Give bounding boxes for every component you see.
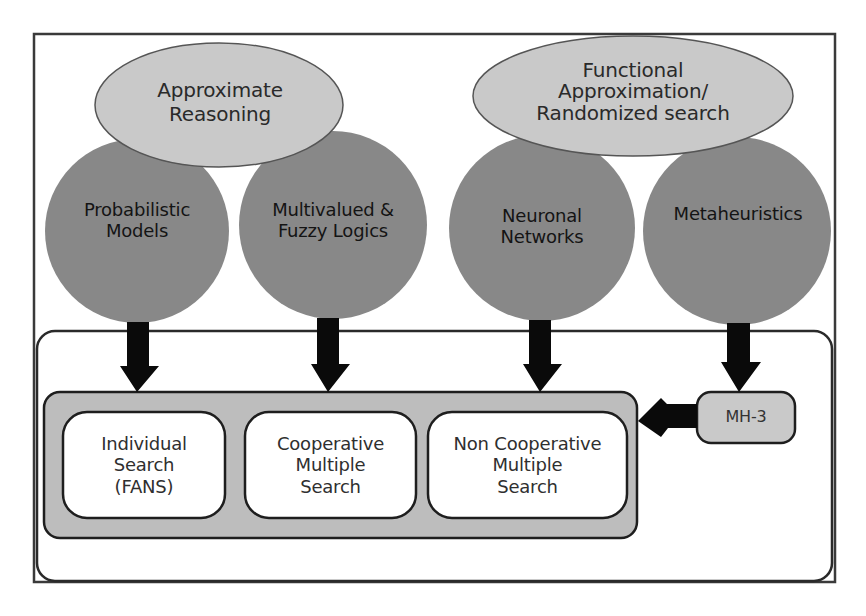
label-mh3: MH-3 (697, 392, 795, 443)
label-metaheuristics: Metaheuristics (650, 196, 826, 232)
label-functional-approximation: Functional Approximation/ Randomized sea… (483, 42, 783, 142)
label-approximate-reasoning: Approximate Reasoning (110, 60, 330, 146)
label-cooperative-multiple-search: Cooperative Multiple Search (245, 412, 416, 518)
label-non-cooperative-multiple-search: Non Cooperative Multiple Search (428, 412, 627, 518)
label-individual-search: Individual Search (FANS) (63, 412, 225, 518)
label-neuronal-networks: Neuronal Networks (455, 196, 629, 256)
label-probabilistic-models: Probabilistic Models (52, 190, 222, 250)
label-multivalued-fuzzy-logics: Multivalued & Fuzzy Logics (245, 190, 421, 250)
